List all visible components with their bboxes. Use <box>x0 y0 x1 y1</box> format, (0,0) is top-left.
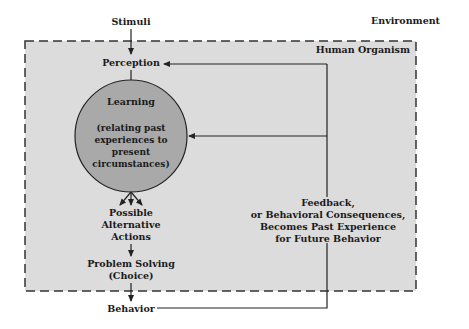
alternatives-line-1: Possible <box>109 207 153 218</box>
feedback-line-2: or Behavioral Consequences, <box>251 209 406 221</box>
learning-line-4: circumstances) <box>92 159 169 169</box>
alternatives-line-2: Alternative <box>100 219 160 230</box>
alternatives-line-3: Actions <box>110 231 151 242</box>
feedback-line-1: Feedback, <box>301 197 354 209</box>
learning-title: Learning <box>107 96 155 107</box>
feedback-line-3: Becomes Past Experience <box>260 221 396 232</box>
problem-solving-line-2: (Choice) <box>108 270 153 281</box>
behavior-label: Behavior <box>107 303 156 314</box>
learning-line-3: present <box>112 147 151 157</box>
learning-line-1: (relating past <box>97 123 167 133</box>
organism-label: Human Organism <box>316 44 410 55</box>
diagram-canvas: Environment Human Organism Stimuli Perce… <box>0 0 469 329</box>
stimuli-label: Stimuli <box>111 16 150 27</box>
problem-solving-line-1: Problem Solving <box>87 258 175 269</box>
learning-line-2: experiences to <box>94 135 167 145</box>
environment-label: Environment <box>371 15 441 26</box>
perception-label: Perception <box>102 57 160 68</box>
feedback-line-4: for Future Behavior <box>275 233 381 244</box>
